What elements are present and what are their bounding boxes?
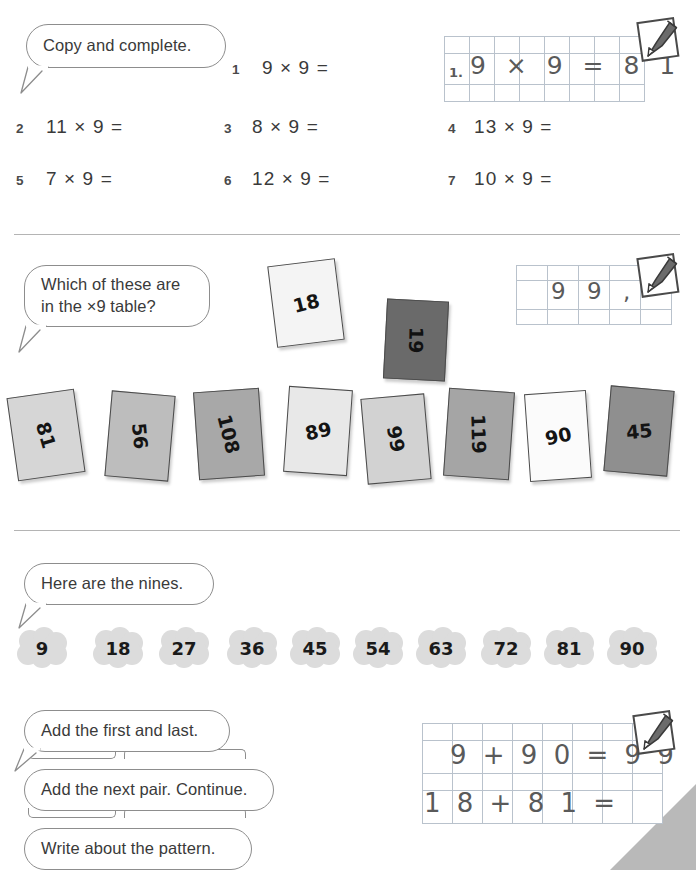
number-card-108-value: 108 [214,412,245,456]
number-card-89[interactable]: 89 [283,386,353,476]
prompt-bubble-add-next-pair-text: Add the next pair. Continue. [41,779,247,801]
nine-blob-6: 54 [350,627,406,669]
number-card-90[interactable]: 90 [524,390,592,482]
question-text-1: 9 × 9 = [262,57,329,79]
question-text-5: 7 × 9 = [46,168,113,190]
number-card-45-value: 45 [625,419,653,443]
nine-blob-4: 36 [224,627,280,669]
pencil-note-icon [634,12,688,68]
divider-rule-1 [14,234,680,235]
nine-blob-5-value: 45 [287,627,343,669]
nine-blob-9-value: 81 [541,627,597,669]
nine-blob-7-value: 63 [413,627,469,669]
number-card-56[interactable]: 56 [104,390,175,481]
question-text-4: 13 × 9 = [474,116,553,138]
nine-blob-6-value: 54 [350,627,406,669]
number-card-18-value: 18 [290,289,321,317]
prompt-bubble-here-nines: Here are the nines. [24,563,214,605]
prompt-bubble-add-next-pair: Add the next pair. Continue. [24,769,274,811]
number-card-99[interactable]: 99 [360,393,431,484]
question-number-2: 2 [16,121,24,136]
prompt-bubble-write-pattern: Write about the pattern. [24,828,252,870]
number-card-56-value: 56 [128,422,152,450]
nine-blob-3: 27 [156,627,212,669]
prompt-bubble-which-table-tail [18,325,52,355]
nine-blob-3-value: 27 [156,627,212,669]
question-text-7: 10 × 9 = [474,168,553,190]
number-card-81[interactable]: 81 [6,389,85,482]
question-text-6: 12 × 9 = [252,168,331,190]
number-card-108[interactable]: 108 [193,388,265,480]
number-card-90-value: 90 [543,422,573,449]
pencil-note-icon-3 [630,705,684,761]
number-card-18[interactable]: 18 [267,258,344,348]
question-text-2: 11 × 9 = [46,116,123,138]
prompt-bubble-add-first-last-tail [14,748,46,774]
question-number-1: 1 [232,62,240,77]
worksheet-page: Copy and complete. 1 9 × 9 = 2 11 × 9 = … [0,0,696,870]
answer-grid-section-2-handwriting: 9 9 , [551,280,637,303]
prompt-bubble-copy-complete-text: Copy and complete. [43,35,192,57]
pencil-note-icon-2 [634,248,688,304]
nine-blob-1-value: 9 [14,627,70,669]
prompt-bubble-write-pattern-text: Write about the pattern. [41,838,216,860]
number-card-119[interactable]: 119 [443,388,515,480]
prompt-bubble-copy-complete: Copy and complete. [26,24,226,68]
number-card-119-value: 119 [467,414,490,454]
nine-blob-1: 9 [14,627,70,669]
question-number-5: 5 [16,173,24,188]
number-card-89-value: 89 [303,417,333,444]
prompt-bubble-here-nines-tail [18,603,52,631]
prompt-bubble-add-first-last: Add the first and last. [24,710,230,752]
nine-blob-5: 45 [287,627,343,669]
question-number-3: 3 [224,121,232,136]
prompt-bubble-add-first-last-text: Add the first and last. [41,720,198,742]
prompt-bubble-copy-complete-tail [20,66,54,96]
nine-blob-7: 63 [413,627,469,669]
nine-blob-8-value: 72 [478,627,534,669]
question-number-4: 4 [448,121,456,136]
question-number-7: 7 [448,173,456,188]
number-card-19-value: 19 [405,327,427,354]
question-text-3: 8 × 9 = [252,116,319,138]
question-number-6: 6 [224,173,232,188]
divider-rule-2 [14,530,680,531]
nine-blob-4-value: 36 [224,627,280,669]
answer-grid-section-4-row2: 1 8 + 8 1 = [424,790,619,816]
number-card-19[interactable]: 19 [383,298,449,381]
nine-blob-8: 72 [478,627,534,669]
prompt-bubble-here-nines-text: Here are the nines. [41,573,183,595]
prompt-bubble-which-table: Which of these are in the ×9 table? [24,265,210,327]
number-card-45[interactable]: 45 [603,385,674,476]
number-card-99-value: 99 [383,424,410,454]
nine-blob-2-value: 18 [90,627,146,669]
answer-grid-section-1-label: 1. [449,66,463,79]
prompt-bubble-which-table-line1: Which of these are [41,275,180,293]
nine-blob-9: 81 [541,627,597,669]
nine-blob-10-value: 90 [604,627,660,669]
nine-blob-2: 18 [90,627,146,669]
prompt-bubble-which-table-line2: in the ×9 table? [41,297,156,315]
number-card-81-value: 81 [32,419,60,450]
nine-blob-10: 90 [604,627,660,669]
